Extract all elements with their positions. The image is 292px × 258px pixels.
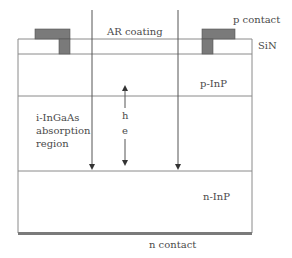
light-arrow-right [175, 10, 181, 170]
electron-drift-arrow [122, 139, 128, 166]
sin-label: SiN [258, 40, 277, 51]
electron-label: e [122, 125, 128, 136]
absorption-label-line1: i-InGaAs [36, 112, 79, 123]
left-p-contact [35, 29, 70, 54]
n-inp-label: n-InP [203, 191, 230, 202]
absorption-label-line2: absorption [36, 125, 90, 136]
p-contact-label: p contact [233, 14, 280, 25]
device-outline [18, 39, 252, 233]
p-inp-label: p-InP [200, 78, 227, 89]
right-p-contact [202, 29, 235, 54]
ar-coating-label: AR coating [107, 26, 163, 37]
hole-label: h [122, 110, 128, 121]
n-contact-label: n contact [149, 239, 196, 250]
n-contact-bar [18, 232, 252, 235]
absorption-label-line3: region [36, 138, 69, 149]
light-arrow-left [89, 10, 95, 170]
